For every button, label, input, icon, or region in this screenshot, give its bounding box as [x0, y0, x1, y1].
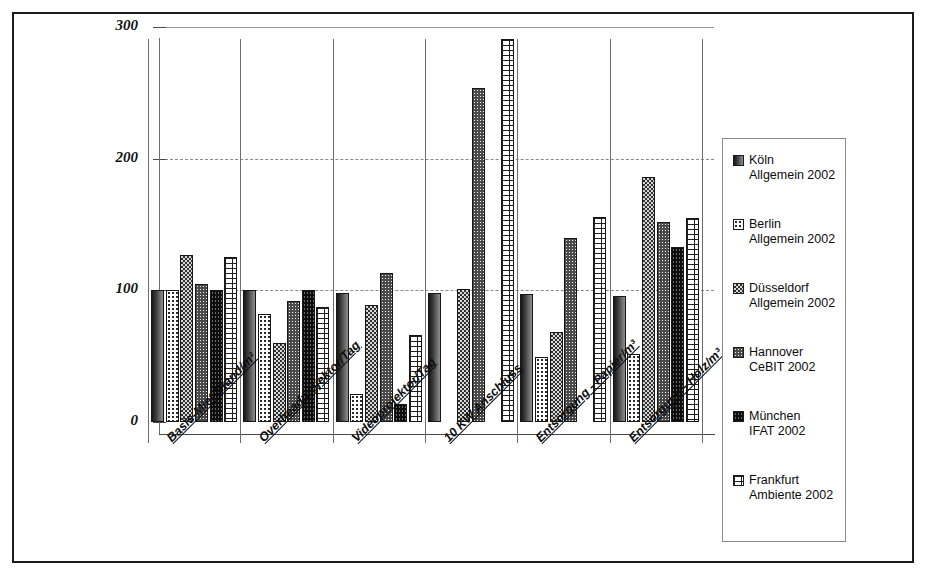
legend-label-line2: Allgemein 2002: [749, 168, 835, 183]
legend-item: BerlinAllgemein 2002: [733, 217, 835, 247]
legend-swatch-icon: [733, 411, 744, 422]
group-separator-6: [702, 39, 703, 443]
bar: [180, 255, 193, 422]
legend-label-line2: Allgemein 2002: [749, 232, 835, 247]
bar-group: [148, 27, 240, 422]
bar: [258, 314, 271, 422]
legend-label-line2: IFAT 2002: [749, 424, 806, 439]
legend-label-line2: CeBIT 2002: [749, 360, 815, 375]
bar: [642, 177, 655, 422]
bar: [151, 290, 164, 422]
y-tick-label-300: 300: [86, 17, 138, 34]
chart-screenshot: 0100200300 Basis-Miet-Stand/m²Overheadpr…: [0, 0, 926, 575]
bar: [350, 394, 363, 422]
legend-item: HannoverCeBIT 2002: [733, 345, 815, 375]
legend-item: MünchenIFAT 2002: [733, 409, 806, 439]
legend-label: BerlinAllgemein 2002: [749, 217, 835, 247]
y-tick-label-0: 0: [86, 412, 138, 429]
bar: [457, 289, 470, 422]
y-tick-label-100: 100: [86, 280, 138, 297]
chart-frame: 0100200300 Basis-Miet-Stand/m²Overheadpr…: [12, 12, 914, 563]
legend-label: KölnAllgemein 2002: [749, 153, 835, 183]
legend-swatch-icon: [733, 347, 744, 358]
bar: [365, 305, 378, 422]
legend-label: DüsseldorfAllgemein 2002: [749, 281, 835, 311]
legend-item: FrankfurtAmbiente 2002: [733, 473, 833, 503]
bar: [520, 294, 533, 422]
legend-label: HannoverCeBIT 2002: [749, 345, 815, 375]
bar-group: [425, 27, 517, 422]
legend-item: DüsseldorfAllgemein 2002: [733, 281, 835, 311]
legend-swatch-icon: [733, 283, 744, 294]
bar: [627, 354, 640, 422]
y-tick-label-200: 200: [86, 149, 138, 166]
legend-label: MünchenIFAT 2002: [749, 409, 806, 439]
bar: [472, 88, 485, 422]
legend-item: KölnAllgemein 2002: [733, 153, 835, 183]
legend-label: FrankfurtAmbiente 2002: [749, 473, 833, 503]
chart-legend: KölnAllgemein 2002BerlinAllgemein 2002Dü…: [722, 138, 846, 542]
legend-swatch-icon: [733, 219, 744, 230]
legend-swatch-icon: [733, 475, 744, 486]
bar: [166, 290, 179, 422]
legend-label-line2: Ambiente 2002: [749, 488, 833, 503]
bar: [535, 357, 548, 422]
bar: [224, 257, 237, 422]
legend-swatch-icon: [733, 155, 744, 166]
bar-group: [517, 27, 609, 422]
legend-label-line2: Allgemein 2002: [749, 296, 835, 311]
